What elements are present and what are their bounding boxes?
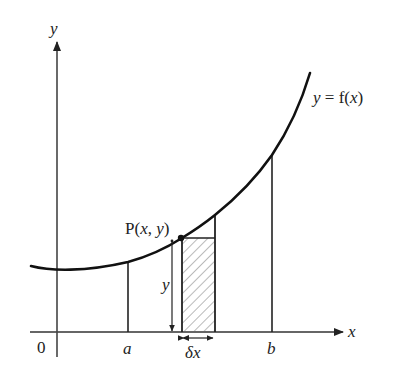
bound-label-b: b — [267, 339, 276, 358]
point-label-y: y — [154, 219, 164, 238]
bound-label-a: a — [123, 339, 132, 358]
width-arrow-left-head — [182, 335, 189, 341]
strip-height-label: y — [160, 275, 170, 294]
height-arrow-top-dot — [171, 240, 174, 243]
curve-label: y = f(x) — [311, 88, 363, 107]
hatched-strip — [182, 238, 215, 332]
strip-width-label: δx — [185, 343, 201, 362]
x-axis-label: x — [347, 322, 356, 341]
point-label-sep: , — [148, 219, 157, 238]
point-label-suffix: ) — [164, 219, 170, 238]
area-under-curve-diagram: y x 0 a b y = f(x) P(x, y) y δx — [0, 0, 393, 379]
curve-label-close: ) — [358, 88, 364, 107]
point-p — [178, 235, 184, 241]
origin-label: 0 — [37, 338, 46, 357]
curve-f-of-x — [31, 73, 310, 270]
point-label-prefix: P( — [125, 219, 140, 238]
strip-width-x: x — [192, 343, 201, 362]
y-axis-label: y — [48, 19, 58, 38]
point-p-label: P(x, y) — [125, 219, 169, 238]
curve-label-y: y — [311, 88, 321, 107]
curve-label-eq: = f( — [321, 88, 351, 107]
